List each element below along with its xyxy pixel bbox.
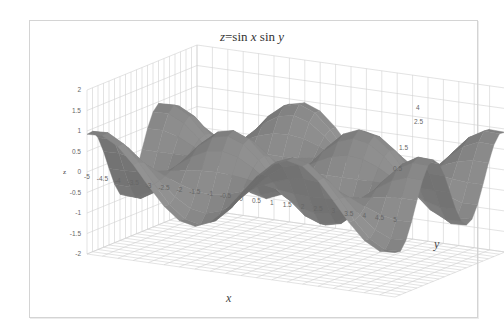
x-tick-label: -3.5 [128, 179, 140, 186]
x-tick-label: 0.5 [252, 197, 261, 204]
x-tick-label: -1 [207, 190, 213, 197]
x-tick-label: -4.5 [97, 175, 109, 182]
z-tick-label: -0.5 [70, 189, 82, 196]
x-tick-label: -2 [177, 186, 183, 193]
x-tick-label: -4 [115, 177, 121, 184]
x-tick-label: -3 [146, 182, 152, 189]
x-tick-label: -2.5 [158, 184, 170, 191]
x-tick-label: 0 [239, 195, 243, 202]
x-axis-title: x [226, 291, 231, 306]
x-tick-label: 4 [362, 212, 366, 219]
z-tick-label: -1 [75, 209, 81, 216]
x-tick-label: -1.5 [189, 188, 201, 195]
y-tick-label: 1.5 [399, 144, 408, 151]
x-tick-label: 5 [393, 216, 397, 223]
x-tick-label: 3 [332, 207, 336, 214]
x-tick-label: 4.5 [375, 214, 384, 221]
z-tick-label: 1.5 [72, 107, 81, 114]
x-tick-label: 1 [270, 199, 274, 206]
x-tick-label: -0.5 [220, 192, 232, 199]
z-tick-label: 1 [77, 127, 81, 134]
y-tick-label: 4 [416, 104, 420, 111]
z-tick-label: -2 [75, 250, 81, 257]
x-tick-label: 3.5 [344, 210, 353, 217]
z-axis-title: z [63, 168, 66, 176]
z-tick-label: 0.5 [72, 148, 81, 155]
y-tick-label: 0.5 [393, 165, 402, 172]
x-tick-label: 1.5 [283, 201, 292, 208]
z-tick-label: 0 [77, 168, 81, 175]
z-tick-label: 2 [77, 86, 81, 93]
z-tick-label: -1.5 [70, 230, 82, 237]
x-tick-label: 2.5 [313, 205, 322, 212]
x-tick-label: -5 [84, 173, 90, 180]
y-tick-label: 2.5 [414, 118, 423, 125]
surface-plot: 21.510.50-0.5-1-1.5-2-5-4.5-4-3.5-3-2.5-… [0, 0, 504, 336]
y-axis-title: y [434, 237, 439, 252]
x-tick-label: 2 [301, 203, 305, 210]
